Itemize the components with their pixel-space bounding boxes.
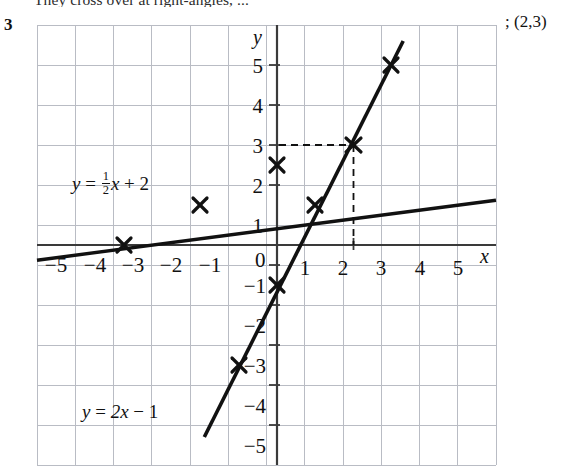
axis-names: y x <box>251 26 489 267</box>
eq1-operator: + <box>124 173 135 194</box>
eq1-variable: x <box>111 173 119 194</box>
equation-label-line2: y = 2x − 1 <box>82 401 158 423</box>
svg-text:2: 2 <box>253 174 264 198</box>
svg-text:1: 1 <box>300 256 311 280</box>
svg-text:0: 0 <box>255 248 266 272</box>
eq1-lhs: y <box>72 173 80 194</box>
x-axis-name: x <box>479 245 489 267</box>
eq2-constant: 1 <box>149 401 159 422</box>
svg-text:4: 4 <box>415 256 426 280</box>
eq2-equals: = <box>95 401 106 422</box>
eq1-numerator: 1 <box>102 170 110 183</box>
eq1-constant: 2 <box>140 173 150 194</box>
svg-text:−1: −1 <box>244 274 266 298</box>
svg-text:3: 3 <box>253 134 264 158</box>
svg-text:5: 5 <box>453 256 464 280</box>
svg-text:1: 1 <box>253 214 264 238</box>
eq1-denominator: 2 <box>102 183 110 197</box>
equation-label-line1: y = 1 2 x + 2 <box>72 171 149 198</box>
svg-text:−3: −3 <box>122 253 144 277</box>
svg-text:−5: −5 <box>244 434 266 458</box>
svg-text:−4: −4 <box>244 394 267 418</box>
eq2-operator: − <box>133 401 144 422</box>
svg-text:2: 2 <box>338 256 349 280</box>
svg-text:3: 3 <box>376 256 387 280</box>
svg-text:−4: −4 <box>84 253 107 277</box>
svg-text:−1: −1 <box>199 253 221 277</box>
eq2-lhs: y <box>82 401 90 422</box>
axis-tick-labels: −5 −4 −3 −2 −1 0 1 2 3 4 5 5 4 3 2 1 −1 … <box>45 54 463 458</box>
svg-text:5: 5 <box>253 54 264 78</box>
eq2-rhs: 2x <box>111 401 129 422</box>
svg-text:4: 4 <box>253 94 264 118</box>
svg-text:−2: −2 <box>160 253 182 277</box>
eq1-fraction: 1 2 <box>102 170 110 197</box>
y-axis-name: y <box>251 26 262 49</box>
eq1-equals: = <box>85 173 96 194</box>
line-2x-minus-1 <box>204 41 403 437</box>
